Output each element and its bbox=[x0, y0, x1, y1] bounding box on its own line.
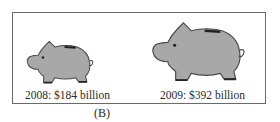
label-2008: 2008: $184 billion bbox=[25, 89, 110, 101]
piggy-bank-icon-2009 bbox=[148, 21, 246, 85]
piggy-bank-icon-2008 bbox=[24, 40, 94, 86]
figure-caption: (B) bbox=[94, 106, 110, 121]
label-2009: 2009: $392 billion bbox=[160, 89, 245, 101]
